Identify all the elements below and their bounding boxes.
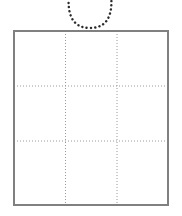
dotted-arc (69, 0, 112, 28)
figure-canvas (0, 0, 182, 216)
square-outline (14, 31, 168, 205)
grid-lines (14, 31, 168, 205)
figure-svg (0, 0, 182, 216)
